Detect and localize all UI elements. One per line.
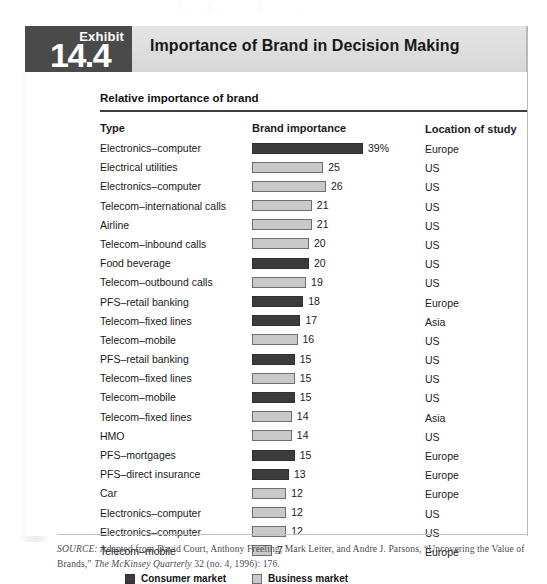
table-row: Telecom–international calls21US (100, 197, 527, 216)
row-bar-cell: 12 (252, 484, 417, 503)
row-bar-cell: 26 (252, 177, 417, 196)
table-row: Telecom–outbound calls19US (100, 273, 527, 292)
row-type-label: Telecom–mobile (100, 391, 255, 403)
row-location-label: US (425, 392, 440, 404)
bar-consumer (252, 143, 363, 154)
row-bar-cell: 21 (252, 216, 417, 235)
row-type-label: Car (100, 487, 255, 499)
bar-value-label: 26 (331, 181, 343, 192)
row-bar-cell: 20 (252, 235, 417, 254)
legend-item-consumer: Consumer market (125, 573, 226, 584)
table-row: Telecom–mobile16US (100, 331, 527, 350)
section-divider (100, 110, 527, 112)
row-type-label: PFS–direct insurance (100, 468, 255, 480)
bar-business (252, 238, 309, 249)
bar-value-label: 20 (314, 258, 326, 269)
row-location-label: US (425, 181, 440, 193)
bar-value-label: 14 (297, 430, 309, 441)
bar-value-label: 15 (300, 373, 312, 384)
exhibit-card: Exhibit 14.4 Importance of Brand in Deci… (25, 26, 528, 536)
legend-swatch-business-icon (252, 574, 262, 584)
exhibit-body: Relative importance of brand Type Brand … (25, 92, 527, 584)
legend-item-business: Business market (252, 573, 348, 584)
bar-value-label: 15 (300, 392, 312, 403)
bar-value-label: 16 (303, 334, 315, 345)
row-type-label: Airline (100, 219, 255, 231)
bar-consumer (252, 450, 295, 461)
bar-value-label: 21 (317, 219, 329, 230)
bar-business (252, 526, 286, 537)
bar-business (252, 162, 323, 173)
row-location-label: US (425, 335, 440, 347)
row-bar-cell: 39% (252, 139, 417, 158)
bar-business (252, 488, 286, 499)
source-divider (57, 534, 528, 535)
row-type-label: Electronics–computer (100, 526, 255, 538)
bar-value-label: 15 (300, 450, 312, 461)
bar-business (252, 200, 312, 211)
row-type-label: Telecom–outbound calls (100, 276, 255, 288)
exhibit-header-banner: Exhibit 14.4 Importance of Brand in Deci… (25, 26, 527, 72)
row-location-label: US (425, 239, 440, 251)
table-row: Electronics–computer39%Europe (100, 139, 527, 158)
row-type-label: Telecom–mobile (100, 334, 255, 346)
table-row: Electronics–computer12US (100, 523, 527, 542)
row-bar-cell: 18 (252, 293, 417, 312)
bar-consumer (252, 296, 303, 307)
legend-label-business: Business market (268, 573, 348, 584)
row-location-label: Europe (425, 469, 459, 481)
row-type-label: HMO (100, 430, 255, 442)
column-header-location: Location of study (425, 123, 517, 135)
bar-business (252, 219, 312, 230)
row-bar-cell: 13 (252, 465, 417, 484)
bar-consumer (252, 258, 309, 269)
legend-label-consumer: Consumer market (141, 573, 226, 584)
page-bleed-through-text: | . . | . . . . | . . . . (180, 2, 540, 11)
bar-business (252, 334, 298, 345)
table-row: PFS–mortgages15Europe (100, 446, 527, 465)
row-bar-cell: 15 (252, 350, 417, 369)
row-location-label: US (425, 527, 440, 539)
row-bar-cell: 15 (252, 369, 417, 388)
source-note: SOURCE: Adapted from David Court, Anthon… (57, 542, 530, 571)
row-bar-cell: 12 (252, 523, 417, 542)
bar-business (252, 181, 326, 192)
row-type-label: Telecom–fixed lines (100, 315, 255, 327)
exhibit-number: 14.4 (50, 38, 110, 72)
row-bar-cell: 14 (252, 408, 417, 427)
bar-value-label: 20 (314, 238, 326, 249)
row-location-label: US (425, 373, 440, 385)
row-type-label: Telecom–fixed lines (100, 372, 255, 384)
row-bar-cell: 15 (252, 446, 417, 465)
source-text-2: 32 (no. 4, 1996): 176. (192, 558, 280, 569)
row-bar-cell: 16 (252, 331, 417, 350)
table-row: Electronics–computer26US (100, 177, 527, 196)
row-type-label: PFS–mortgages (100, 449, 255, 461)
table-header-row: Type Brand importance Location of study (100, 119, 527, 139)
row-type-label: Electronics–computer (100, 180, 255, 192)
row-location-label: US (425, 354, 440, 366)
table-row: Telecom–mobile15US (100, 388, 527, 407)
row-location-label: US (425, 508, 440, 520)
bar-consumer (252, 354, 295, 365)
table-row: PFS–retail banking15US (100, 350, 527, 369)
bar-value-label: 39% (368, 143, 389, 154)
row-location-label: Asia (425, 316, 445, 328)
bar-business (252, 430, 292, 441)
bar-value-label: 18 (308, 296, 320, 307)
table-row: Telecom–fixed lines15US (100, 369, 527, 388)
bar-consumer (252, 469, 289, 480)
source-prefix: SOURCE: (57, 543, 98, 554)
bar-value-label: 21 (317, 200, 329, 211)
row-location-label: Europe (425, 297, 459, 309)
table-row: Electronics–computer12US (100, 504, 527, 523)
section-title: Relative importance of brand (100, 92, 527, 104)
bar-business (252, 277, 306, 288)
row-bar-cell: 21 (252, 197, 417, 216)
legend-swatch-consumer-icon (125, 574, 135, 584)
row-type-label: Electrical utilities (100, 161, 255, 173)
row-bar-cell: 25 (252, 158, 417, 177)
row-location-label: Europe (425, 143, 459, 155)
bar-value-label: 15 (300, 354, 312, 365)
row-location-label: Europe (425, 488, 459, 500)
